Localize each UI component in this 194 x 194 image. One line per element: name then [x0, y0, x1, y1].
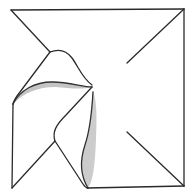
origami-diagram	[0, 0, 194, 194]
square-top-edge	[11, 9, 184, 10]
top-right-diagonal-crease	[127, 9, 184, 63]
left-edge	[12, 104, 13, 188]
upper-flap-top-curve	[50, 50, 92, 85]
stippled-shading-lower	[82, 92, 97, 188]
lower-left-diagonal	[12, 141, 55, 188]
square-bottom-edge	[87, 186, 184, 188]
top-left-diagonal-crease	[11, 10, 50, 52]
bottom-right-diagonal-crease	[127, 132, 184, 186]
